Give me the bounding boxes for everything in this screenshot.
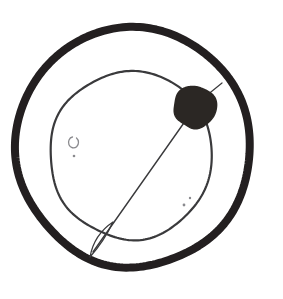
sketch-drawing: [0, 0, 283, 299]
speck-dot-right-lower: [183, 204, 186, 207]
canvas-background: [0, 0, 283, 299]
speck-dot-right-upper: [189, 197, 191, 199]
sketch-canvas: [0, 0, 283, 299]
speck-dot-left: [73, 155, 76, 158]
